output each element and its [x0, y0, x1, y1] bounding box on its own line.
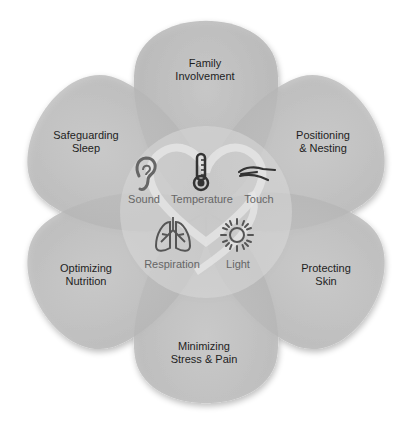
- petal-label-safeguarding-sleep: Safeguarding Sleep: [53, 129, 118, 155]
- petal-label-line1: Protecting: [301, 262, 351, 275]
- petal-label-line2: Stress & Pain: [171, 353, 238, 366]
- petal-label-protecting-skin: Protecting Skin: [301, 262, 351, 288]
- hand-icon: [237, 164, 277, 184]
- sense-label-sound: Sound: [128, 193, 160, 205]
- petal-label-line2: Sleep: [53, 142, 118, 155]
- sense-label-light: Light: [226, 258, 250, 270]
- petal-label-minimizing-stress-pain: Minimizing Stress & Pain: [171, 340, 238, 366]
- lungs-icon: [153, 216, 193, 254]
- flower-diagram: Family Involvement Positioning & Nesting…: [0, 0, 413, 429]
- petal-label-optimizing-nutrition: Optimizing Nutrition: [60, 262, 112, 288]
- petal-label-line1: Safeguarding: [53, 129, 118, 142]
- sense-label-temperature: Temperature: [171, 193, 233, 205]
- sun-icon: [219, 217, 255, 253]
- petal-label-positioning-nesting: Positioning & Nesting: [296, 129, 350, 155]
- petal-label-line2: Nutrition: [60, 275, 112, 288]
- sense-label-touch: Touch: [244, 193, 273, 205]
- thermometer-icon: [191, 152, 211, 192]
- ear-icon: [133, 156, 159, 194]
- petal-label-line1: Positioning: [296, 129, 350, 142]
- petal-label-line1: Optimizing: [60, 262, 112, 275]
- petal-label-line2: Skin: [301, 275, 351, 288]
- petal-label-family-involvement: Family Involvement: [175, 57, 234, 83]
- petal-label-line1: Family: [175, 57, 234, 70]
- petal-label-line1: Minimizing: [171, 340, 238, 353]
- sense-label-respiration: Respiration: [144, 258, 200, 270]
- petal-label-line2: & Nesting: [296, 142, 350, 155]
- petal-label-line2: Involvement: [175, 70, 234, 83]
